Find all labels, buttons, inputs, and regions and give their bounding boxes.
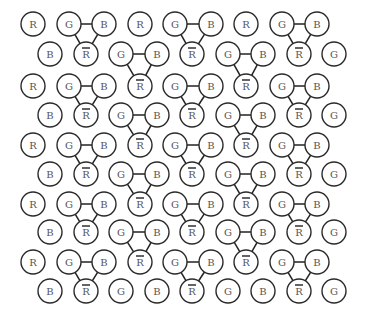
node-label: G: [171, 199, 179, 210]
node-r-bar: R: [287, 279, 311, 303]
node-r: R: [21, 250, 45, 274]
node-label: R: [242, 199, 250, 210]
node-label: B: [153, 227, 160, 238]
node-label: G: [278, 199, 286, 210]
node-label: B: [259, 49, 266, 60]
node-b: B: [251, 220, 275, 244]
node-label: G: [224, 49, 232, 60]
node-r: R: [128, 12, 152, 36]
node-r-bar: R: [180, 220, 204, 244]
node-label: G: [330, 227, 338, 238]
node-b: B: [305, 133, 329, 157]
node-label: G: [117, 169, 125, 180]
node-r-bar: R: [74, 42, 98, 66]
node-r: R: [21, 192, 45, 216]
node-label: B: [259, 110, 266, 121]
node-label: G: [278, 257, 286, 268]
node-label: B: [46, 110, 53, 121]
node-r-bar: R: [74, 220, 98, 244]
node-r: R: [234, 12, 258, 36]
node-b: B: [305, 250, 329, 274]
node-g: G: [216, 103, 240, 127]
node-g: G: [57, 12, 81, 36]
node-label: G: [117, 49, 125, 60]
node-b: B: [92, 250, 116, 274]
node-label: B: [100, 257, 107, 268]
node-label: G: [224, 169, 232, 180]
node-b: B: [92, 74, 116, 98]
node-g: G: [57, 192, 81, 216]
node-r-bar: R: [128, 74, 152, 98]
node-label: B: [207, 19, 214, 30]
node-label: B: [313, 199, 320, 210]
node-label: G: [224, 227, 232, 238]
node-r-bar: R: [180, 103, 204, 127]
node-label: R: [82, 110, 90, 121]
node-b: B: [92, 133, 116, 157]
node-g: G: [109, 42, 133, 66]
node-label: B: [46, 286, 53, 297]
node-g: G: [270, 250, 294, 274]
node-label: G: [117, 110, 125, 121]
node-label: R: [188, 286, 196, 297]
node-label: B: [46, 49, 53, 60]
node-label: B: [100, 19, 107, 30]
node-b: B: [305, 192, 329, 216]
node-g: G: [109, 162, 133, 186]
node-label: B: [46, 227, 53, 238]
node-label: B: [207, 140, 214, 151]
node-label: R: [188, 169, 196, 180]
node-label: R: [242, 257, 250, 268]
node-label: G: [171, 19, 179, 30]
node-label: R: [29, 81, 37, 92]
node-r: R: [21, 74, 45, 98]
node-r-bar: R: [128, 133, 152, 157]
node-label: R: [82, 286, 90, 297]
node-label: B: [100, 199, 107, 210]
node-b: B: [199, 192, 223, 216]
node-r: R: [21, 12, 45, 36]
node-g: G: [57, 133, 81, 157]
node-b: B: [199, 250, 223, 274]
node-label: B: [207, 81, 214, 92]
node-label: B: [100, 81, 107, 92]
node-b: B: [199, 12, 223, 36]
node-label: R: [136, 257, 144, 268]
node-label: B: [207, 199, 214, 210]
node-label: B: [259, 227, 266, 238]
node-label: R: [242, 140, 250, 151]
node-g: G: [322, 220, 346, 244]
node-g: G: [322, 103, 346, 127]
node-r-bar: R: [180, 42, 204, 66]
node-label: R: [242, 81, 250, 92]
node-label: R: [188, 49, 196, 60]
node-label: B: [259, 169, 266, 180]
node-label: G: [117, 286, 125, 297]
node-r-bar: R: [234, 250, 258, 274]
node-b: B: [145, 220, 169, 244]
node-b: B: [38, 42, 62, 66]
node-b: B: [305, 74, 329, 98]
node-label: B: [207, 257, 214, 268]
node-label: R: [295, 49, 303, 60]
node-g: G: [109, 279, 133, 303]
node-b: B: [38, 103, 62, 127]
node-label: G: [117, 227, 125, 238]
node-label: R: [295, 110, 303, 121]
node-b: B: [38, 220, 62, 244]
node-g: G: [322, 42, 346, 66]
node-r-bar: R: [74, 279, 98, 303]
node-g: G: [163, 12, 187, 36]
node-g: G: [163, 133, 187, 157]
node-label: R: [82, 49, 90, 60]
node-label: G: [224, 110, 232, 121]
node-label: R: [242, 19, 250, 30]
node-label: R: [136, 19, 144, 30]
node-label: G: [224, 286, 232, 297]
node-label: G: [278, 19, 286, 30]
node-r-bar: R: [234, 74, 258, 98]
node-label: G: [171, 257, 179, 268]
node-r-bar: R: [234, 192, 258, 216]
node-label: B: [259, 286, 266, 297]
node-b: B: [251, 162, 275, 186]
